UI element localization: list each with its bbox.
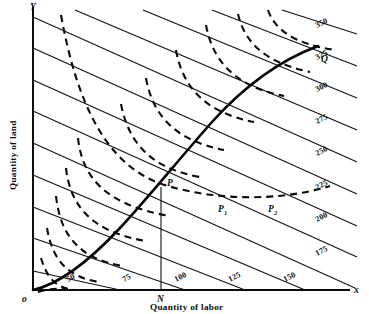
isoquant-diagram-figure: Y x o N Quantity of land Quantity of lab…: [0, 0, 369, 314]
isoquant-curve-7: [61, 15, 330, 197]
isocost-line-225: [33, 48, 357, 194]
isoquant-curve-4: [56, 196, 122, 266]
isocost-label-350: 350: [314, 16, 329, 30]
isoquant-curve-11: [206, 25, 284, 96]
point-label-p: P: [167, 178, 173, 188]
isocost-label-300: 300: [314, 80, 329, 94]
isoquant-curve-9: [146, 78, 224, 150]
isoquant-curve-6: [78, 138, 170, 216]
isocost-label-275: 275: [314, 112, 329, 126]
expansion-path-curve: [33, 46, 318, 290]
isocost-label-150: 150: [282, 270, 297, 284]
diagram-canvas: Y x o N Quantity of land Quantity of lab…: [0, 0, 369, 314]
isocost-label-250: 250: [314, 144, 329, 158]
isocost-label-100: 100: [173, 270, 188, 284]
point-label-p1-subscript: 1: [224, 209, 227, 216]
isocost-line-325: [212, 10, 357, 66]
isocost-line-175: [33, 111, 357, 257]
point-label-p2-subscript: 2: [273, 209, 277, 216]
isocost-label-175: 175: [314, 244, 329, 258]
x-axis-letter: x: [353, 285, 359, 295]
y-axis-letter: Y: [30, 2, 37, 12]
y-axis-title: Quantity of land: [8, 120, 18, 190]
x-axis-title: Quantity of labor: [150, 302, 224, 312]
isocost-line-275: [75, 10, 357, 130]
isocost-line-group: [33, 10, 357, 290]
isocost-line-150: [33, 143, 355, 288]
isocost-label-75: 75: [121, 272, 133, 284]
isocost-label-125: 125: [227, 270, 242, 284]
origin-label: o: [22, 294, 27, 304]
isoquant-curve-5: [66, 168, 146, 241]
